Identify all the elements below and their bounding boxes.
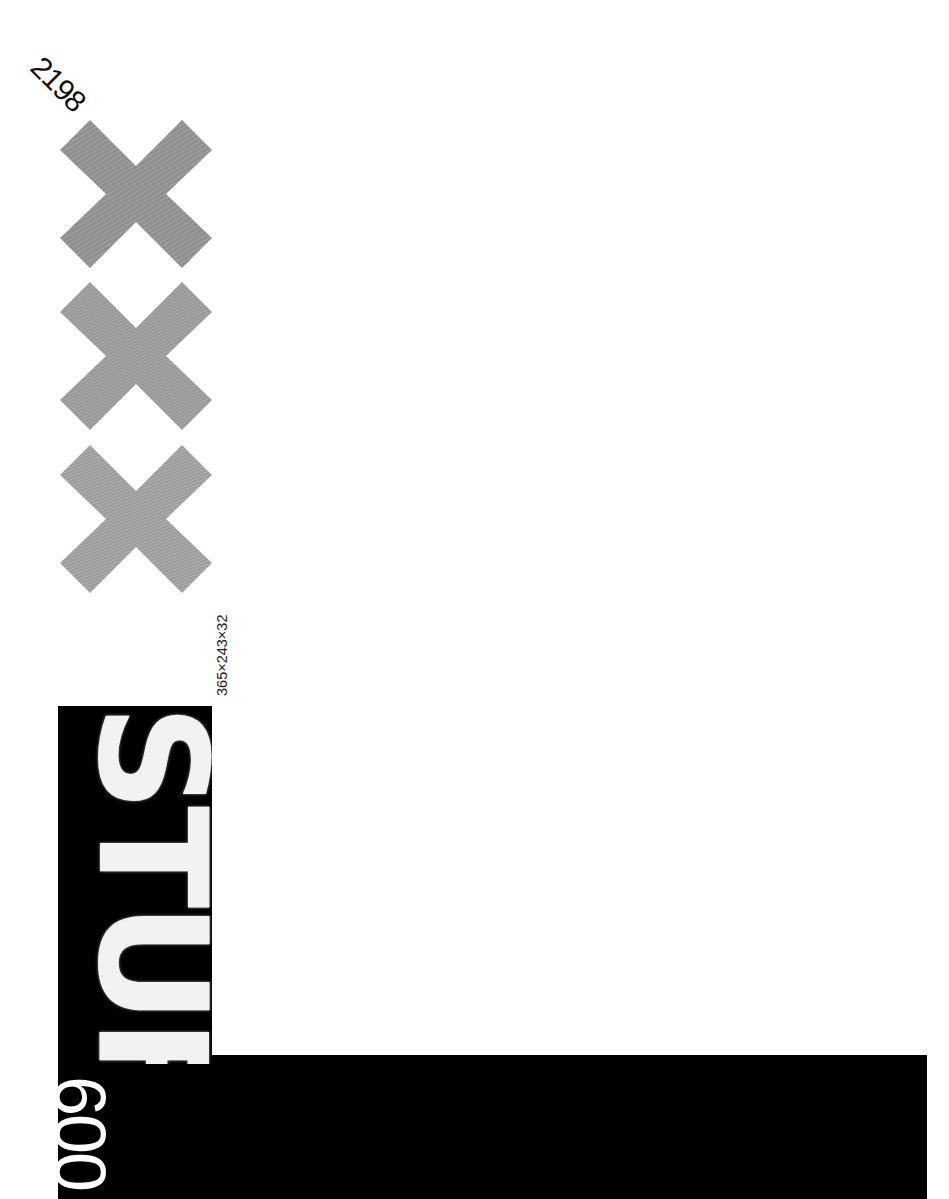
x-mark-icon [60, 282, 212, 430]
black-band [58, 1055, 927, 1199]
bottom-number: 600 [52, 1076, 108, 1199]
x-mark-icon [60, 445, 212, 593]
dimensions-label: 365×243×32 [213, 586, 231, 696]
x-mark-icon [60, 120, 212, 268]
title-word: STUFF [92, 704, 212, 1064]
